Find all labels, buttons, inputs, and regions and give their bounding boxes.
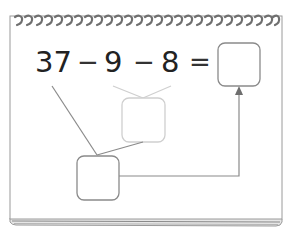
equation-term-1: 37 — [35, 44, 72, 80]
minus-operator-1: − — [77, 44, 99, 80]
intermediate-answer-box[interactable] — [77, 156, 119, 200]
equation-term-3: 8 — [161, 44, 179, 80]
equation-term-2: 9 — [104, 44, 122, 80]
minus-operator-2: − — [133, 44, 155, 80]
answer-box[interactable] — [218, 43, 260, 86]
faded-intermediate-box — [122, 98, 165, 142]
equals-sign: = — [189, 44, 211, 80]
notepad-illustration — [0, 0, 291, 229]
notepad-worksheet: 37 − 9 − 8 = — [0, 0, 291, 229]
